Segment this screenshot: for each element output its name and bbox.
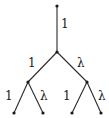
edge-label: λ (77, 56, 85, 70)
node-n3 (85, 80, 88, 83)
node-leaf3 (70, 111, 73, 114)
edge-label: λ (40, 89, 48, 103)
node-n2 (26, 80, 29, 83)
node-root (55, 4, 58, 7)
edge-label: 1 (5, 89, 13, 103)
node-n1 (55, 50, 58, 53)
node-leaf2 (41, 111, 44, 114)
node-leaf4 (99, 111, 102, 114)
edge-label: 1 (28, 56, 36, 70)
tree-diagram: 11λ1λ1λ (0, 0, 109, 118)
edge-label: 1 (61, 17, 69, 31)
node-leaf1 (12, 111, 15, 114)
edge-n2-leaf1 (14, 82, 28, 113)
edge-label: 1 (63, 89, 71, 103)
edge-label: λ (98, 89, 106, 103)
edge-n3-leaf3 (72, 82, 87, 113)
